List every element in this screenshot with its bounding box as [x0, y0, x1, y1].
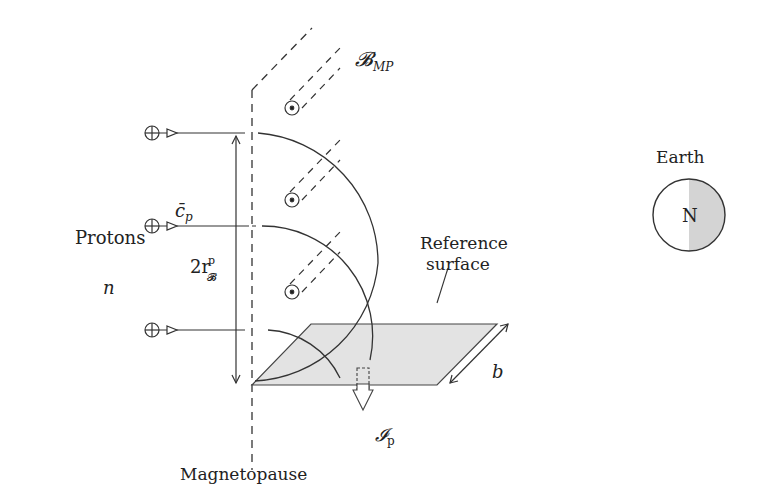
field-label: 𝓑MP: [355, 47, 394, 74]
reference-surface-label-line1: Reference: [420, 233, 508, 253]
earth-label: Earth: [656, 147, 705, 167]
diagram-canvas: Protons n c̄p 2rp𝓑 𝓑MP Reference surface…: [0, 0, 759, 494]
magnetic-field-lines: [290, 48, 340, 292]
magnetopause-label: Magnetopause: [180, 464, 307, 484]
reference-surface-label-line2: surface: [426, 254, 490, 274]
protons-label: Protons: [75, 227, 145, 248]
density-label: n: [103, 277, 115, 298]
diameter-arrow: [232, 136, 240, 383]
north-label: N: [682, 205, 698, 226]
radius-label: 2rp𝓑: [190, 254, 217, 284]
width-label: b: [492, 361, 504, 382]
magnetopause-boundary: [252, 28, 312, 470]
velocity-label: c̄p: [175, 200, 193, 224]
proton-inflow: [145, 126, 258, 337]
field-out-of-page-icons: [285, 101, 299, 299]
current-label: 𝓘p: [375, 424, 395, 448]
